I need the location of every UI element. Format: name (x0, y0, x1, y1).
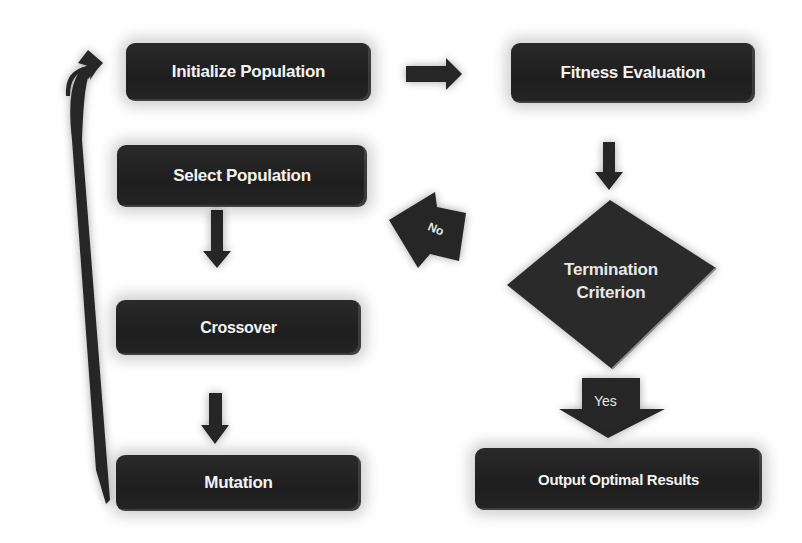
node-label: Crossover (200, 319, 276, 337)
edge-label-yes: Yes (594, 393, 617, 409)
decision-label: Termination Criterion (548, 258, 674, 304)
arrow-right-icon (406, 58, 462, 90)
node-select-population: Select Population (117, 145, 367, 207)
node-output-optimal-results: Output Optimal Results (475, 448, 762, 510)
arrow-down-icon (595, 142, 623, 190)
node-label: Initialize Population (172, 62, 325, 82)
node-fitness-evaluation: Fitness Evaluation (511, 43, 755, 103)
node-initialize-population: Initialize Population (126, 43, 371, 101)
node-label: Output Optimal Results (538, 471, 699, 488)
node-crossover: Crossover (116, 300, 361, 355)
node-label: Mutation (204, 473, 272, 493)
decision-label-line1: Termination (548, 258, 674, 281)
arrow-down-icon (203, 210, 231, 268)
arrow-down-icon (201, 393, 229, 444)
node-label: Fitness Evaluation (561, 63, 706, 83)
node-mutation: Mutation (116, 455, 361, 511)
decision-label-line2: Criterion (548, 281, 674, 304)
node-label: Select Population (173, 166, 311, 186)
loop-back-arrow-icon (66, 50, 110, 504)
